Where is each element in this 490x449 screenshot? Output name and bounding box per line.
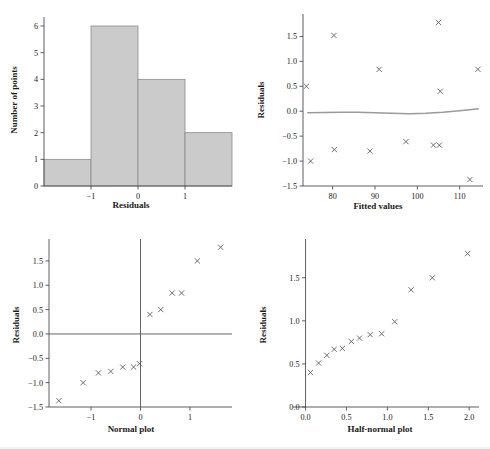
data-point-marker (437, 143, 442, 148)
histogram-svg: 0123456−101 Residuals Number of points (0, 0, 245, 224)
normal-reference-lines (49, 239, 232, 407)
data-point-marker (218, 245, 223, 250)
axis-tick-label: 2.0 (464, 413, 474, 422)
fitted-smooth-curve (307, 109, 479, 114)
fitted-y-axis-title: Residuals (256, 81, 266, 119)
fitted-svg: −1.5−1.0−0.50.00.51.01.58090100110 Fitte… (245, 0, 490, 224)
data-point-marker (467, 177, 472, 182)
axis-tick-label: 1.0 (287, 57, 297, 66)
normal-data-markers (56, 245, 223, 404)
axis-tick-label: 100 (411, 192, 423, 201)
histogram-bar (44, 159, 91, 186)
axis-tick-label: 6 (34, 22, 38, 31)
data-point-marker (308, 158, 313, 163)
data-point-marker (379, 331, 384, 336)
data-point-marker (367, 149, 372, 154)
data-point-marker (431, 143, 436, 148)
halfnormal-x-axis-title: Half-normal plot (347, 424, 412, 434)
histogram-bar (91, 26, 138, 186)
diagnostic-plot-figure: 0123456−101 Residuals Number of points −… (0, 0, 490, 449)
data-point-marker (158, 307, 163, 312)
data-point-marker (465, 251, 470, 256)
data-point-marker (408, 287, 413, 292)
axis-tick-label: −1.0 (28, 379, 43, 388)
normal-svg: −1.5−1.0−0.50.00.51.01.5−101 Normal plot… (0, 225, 245, 449)
axis-tick-label: 3 (34, 102, 38, 111)
smooth-trend-line (307, 109, 479, 114)
normal-y-axis-title: Residuals (11, 306, 21, 344)
axis-tick-label: −1 (87, 192, 96, 201)
axis-tick-label: −1.5 (28, 403, 43, 412)
data-point-marker (349, 339, 354, 344)
axis-tick-label: 4 (34, 75, 38, 84)
data-point-marker (147, 312, 152, 317)
data-point-marker (137, 361, 142, 366)
axis-tick-label: 1 (188, 413, 192, 422)
fitted-ticklabels: −1.5−1.0−0.50.00.51.01.58090100110 (282, 32, 466, 201)
axis-tick-label: −1.0 (282, 157, 297, 166)
halfnormal-data-markers (308, 251, 470, 375)
data-point-marker (332, 147, 337, 152)
axis-tick-label: −0.5 (28, 354, 43, 363)
halfnormal-axes (293, 239, 479, 411)
histogram-x-axis-title: Residuals (112, 200, 150, 210)
panel-normal-plot: −1.5−1.0−0.50.00.51.01.5−101 Normal plot… (0, 225, 245, 449)
axis-tick-label: 0.5 (287, 82, 297, 91)
fitted-axes (300, 14, 484, 190)
data-point-marker (108, 369, 113, 374)
axis-tick-label: 1.5 (423, 413, 433, 422)
axis-tick-label: 1.5 (289, 274, 299, 283)
axis-tick-label: 110 (454, 192, 466, 201)
axis-tick-label: 1.0 (382, 413, 392, 422)
histogram-y-axis-title: Number of points (9, 66, 19, 134)
data-point-marker (96, 370, 101, 375)
axis-tick-label: −0.5 (282, 132, 297, 141)
data-point-marker (475, 67, 480, 72)
data-point-marker (438, 89, 443, 94)
histogram-bars (44, 26, 232, 186)
data-point-marker (436, 20, 441, 25)
data-point-marker (357, 335, 362, 340)
data-point-marker (170, 290, 175, 295)
data-point-marker (131, 364, 136, 369)
halfnormal-ticklabels: 0.00.51.01.50.00.51.01.52.0 (289, 274, 474, 422)
data-point-marker (340, 346, 345, 351)
halfnormal-y-axis-title: Residuals (258, 306, 268, 344)
data-point-marker (403, 139, 408, 144)
data-point-marker (331, 33, 336, 38)
data-point-marker (56, 398, 61, 403)
axis-tick-label: 1.5 (287, 32, 297, 41)
axis-tick-label: 0.0 (300, 413, 310, 422)
axis-tick-label: 80 (329, 192, 337, 201)
axis-tick-label: −1 (87, 413, 96, 422)
axis-tick-label: 0.0 (289, 403, 299, 412)
axis-tick-label: 0.0 (33, 330, 43, 339)
axis-tick-label: 1.0 (289, 317, 299, 326)
data-point-marker (120, 364, 125, 369)
axis-tick-label: 0.5 (289, 360, 299, 369)
data-point-marker (179, 290, 184, 295)
axis-tick-label: 1.5 (33, 257, 43, 266)
panel-fitted-vs-residuals: −1.5−1.0−0.50.00.51.01.58090100110 Fitte… (245, 0, 490, 224)
axis-tick-label: 5 (34, 49, 38, 58)
axis-tick-label: 0.5 (341, 413, 351, 422)
normal-ticklabels: −1.5−1.0−0.50.00.51.01.5−101 (28, 257, 192, 422)
axis-tick-label: −1.5 (282, 182, 297, 191)
halfnormal-svg: 0.00.51.01.50.00.51.01.52.0 Half-normal … (245, 225, 490, 449)
axis-tick-label: 0.5 (33, 306, 43, 315)
axis-tick-label: 2 (34, 129, 38, 138)
data-point-marker (392, 319, 397, 324)
axis-tick-label: 1 (183, 192, 187, 201)
axis-tick-label: 0.0 (287, 107, 297, 116)
fitted-x-axis-title: Fitted values (353, 201, 403, 211)
axis-tick-label: 0 (138, 413, 142, 422)
normal-x-axis-title: Normal plot (108, 424, 155, 434)
panel-half-normal-plot: 0.00.51.01.50.00.51.01.52.0 Half-normal … (245, 225, 490, 449)
data-point-marker (304, 84, 309, 89)
data-point-marker (195, 258, 200, 263)
axis-tick-label: 1.0 (33, 281, 43, 290)
data-point-marker (316, 360, 321, 365)
data-point-marker (308, 370, 313, 375)
data-point-marker (332, 347, 337, 352)
normal-axes (46, 239, 233, 411)
